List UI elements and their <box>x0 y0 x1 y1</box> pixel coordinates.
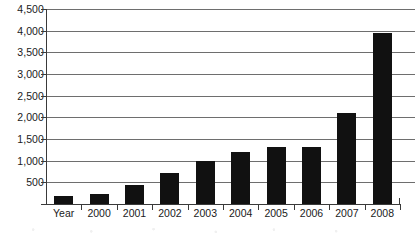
scan-artifact <box>0 226 415 235</box>
bar <box>231 152 250 204</box>
x-axis-tick-label: 2008 <box>371 208 394 219</box>
y-axis-tick-label: 1,500 <box>4 134 44 145</box>
x-axis-tick-label: 2007 <box>335 208 358 219</box>
y-axis-tick-label: 500 <box>4 177 44 188</box>
x-axis-tick-label: 2004 <box>229 208 252 219</box>
y-axis-tick-label: 4,000 <box>4 25 44 36</box>
x-axis-tick-label: Year <box>53 208 74 219</box>
x-axis-tick-label: 2006 <box>300 208 323 219</box>
y-axis-tick-label: 1,000 <box>4 155 44 166</box>
bar <box>196 161 215 204</box>
bar <box>54 196 73 204</box>
y-axis-label-group: 5001,0001,5002,0002,5003,0003,5004,0004,… <box>0 0 44 235</box>
y-axis-tick-label: 2,500 <box>4 90 44 101</box>
bar-chart: 5001,0001,5002,0002,5003,0003,5004,0004,… <box>0 0 415 235</box>
x-axis-tick-label: 2005 <box>264 208 287 219</box>
y-axis-tick-label: 2,000 <box>4 112 44 123</box>
bar <box>160 173 179 204</box>
y-axis-tick-label: 4,500 <box>4 4 44 15</box>
bar <box>90 194 109 204</box>
y-axis-tick-label: 3,500 <box>4 47 44 58</box>
x-axis-tick-label: 2000 <box>87 208 110 219</box>
bar <box>337 113 356 204</box>
x-axis-label-group: Year200020012002200320042005200620072008 <box>46 208 400 226</box>
x-axis-tick-label: 2003 <box>194 208 217 219</box>
x-axis-tick-label: 2001 <box>123 208 146 219</box>
bar <box>302 147 321 204</box>
bar <box>267 147 286 204</box>
y-axis-tick-label: 3,000 <box>4 69 44 80</box>
x-axis-tick-label: 2002 <box>158 208 181 219</box>
x-axis-tick-mark <box>400 204 401 210</box>
bar <box>373 33 392 204</box>
bar <box>125 185 144 204</box>
plot-area <box>46 9 400 204</box>
